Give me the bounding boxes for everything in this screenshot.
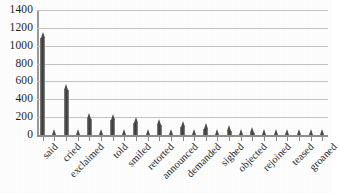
bar — [157, 125, 162, 135]
y-axis-tick-labels: 1400120010008006004002000 — [0, 0, 36, 145]
y-axis-tick-label: 1400 — [10, 4, 33, 16]
bar-series — [37, 10, 328, 135]
y-axis-tick-label: 800 — [15, 58, 33, 70]
bar-slot — [200, 10, 212, 135]
bar-slot — [247, 10, 259, 135]
bar-slot — [316, 10, 328, 135]
x-axis-tick-labels: saidcriedexclaimedtoldsmiledretortedanno… — [37, 141, 328, 193]
bar-slot — [305, 10, 317, 135]
bar-slot — [281, 10, 293, 135]
y-axis-tick-label: 1200 — [10, 22, 33, 34]
y-axis-tick-label: 200 — [15, 111, 33, 123]
bar-slot — [37, 10, 49, 135]
bar-slot — [223, 10, 235, 135]
bar — [180, 127, 185, 135]
bar-slot — [293, 10, 305, 135]
y-axis-tick-label: 0 — [27, 129, 33, 141]
bar-slot — [107, 10, 119, 135]
bar-slot — [49, 10, 61, 135]
bar-slot — [235, 10, 247, 135]
plot-area — [37, 10, 328, 137]
bar-slot — [258, 10, 270, 135]
x-axis-tick-label: said — [40, 141, 60, 161]
bar-slot — [95, 10, 107, 135]
bar — [133, 123, 138, 135]
bar — [110, 120, 115, 135]
bar-slot — [270, 10, 282, 135]
bar-slot — [153, 10, 165, 135]
bar-slot — [165, 10, 177, 135]
bar — [87, 119, 92, 135]
bar-slot — [177, 10, 189, 135]
bar-slot — [212, 10, 224, 135]
bar-slot — [84, 10, 96, 135]
y-axis-tick-label: 600 — [15, 76, 33, 88]
bar-slot — [142, 10, 154, 135]
bar-slot — [130, 10, 142, 135]
bar-slot — [72, 10, 84, 135]
y-axis-tick-label: 1000 — [10, 40, 33, 52]
bar-slot — [118, 10, 130, 135]
y-axis-tick-label: 400 — [15, 94, 33, 106]
x-axis-tick-label: told — [110, 141, 129, 160]
bar-slot — [188, 10, 200, 135]
bar — [64, 90, 69, 135]
bar — [40, 38, 45, 135]
bar-slot — [60, 10, 72, 135]
